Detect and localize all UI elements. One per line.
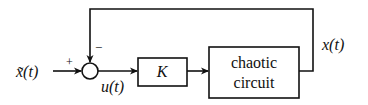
summing-junction bbox=[82, 63, 98, 79]
input-label: x̃(t) bbox=[15, 63, 38, 81]
output-label: x(t) bbox=[321, 36, 344, 54]
block-diagram: x̃(t) + − u(t) K chaotic circuit x(t) bbox=[0, 0, 368, 105]
gain-label: K bbox=[156, 63, 169, 80]
control-label: u(t) bbox=[101, 78, 124, 96]
plant-label-line1: chaotic bbox=[231, 54, 277, 71]
feedback-sign: − bbox=[95, 40, 102, 55]
input-sign: + bbox=[66, 55, 73, 69]
plant-label-line2: circuit bbox=[234, 74, 275, 91]
